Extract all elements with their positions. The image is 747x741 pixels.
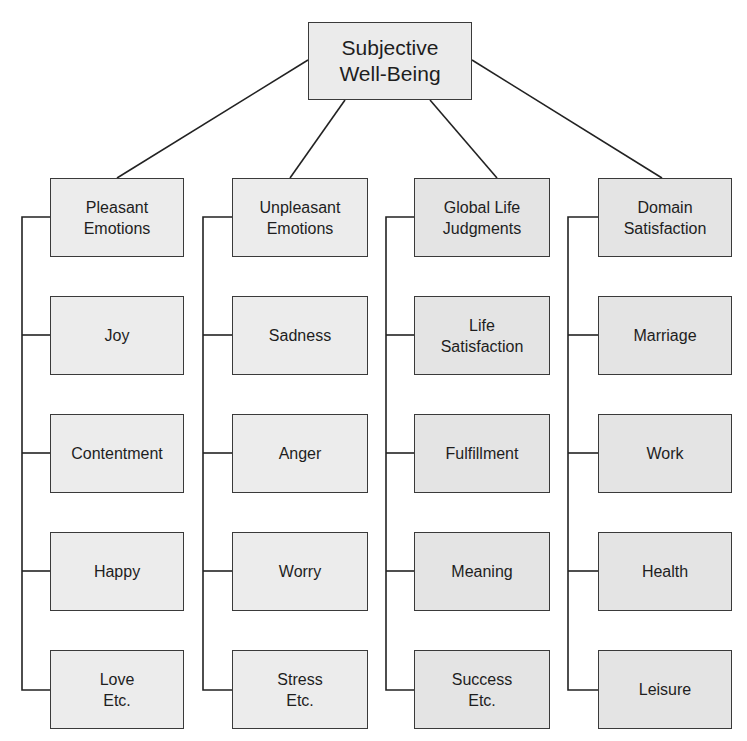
node-happy: Happy — [50, 532, 184, 611]
node-work: Work — [598, 414, 732, 493]
node-meaning: Meaning — [414, 532, 550, 611]
node-success-etc: Success Etc. — [414, 650, 550, 729]
node-marriage: Marriage — [598, 296, 732, 375]
category-pleasant-emotions: Pleasant Emotions — [50, 178, 184, 257]
node-contentment: Contentment — [50, 414, 184, 493]
node-leisure: Leisure — [598, 650, 732, 729]
category-domain-satisfaction: Domain Satisfaction — [598, 178, 732, 257]
node-joy: Joy — [50, 296, 184, 375]
root-node-subjective-well-being: Subjective Well-Being — [308, 22, 472, 100]
node-fulfillment: Fulfillment — [414, 414, 550, 493]
category-unpleasant-emotions: Unpleasant Emotions — [232, 178, 368, 257]
category-global-life-judgments: Global Life Judgments — [414, 178, 550, 257]
node-love-etc: Love Etc. — [50, 650, 184, 729]
node-anger: Anger — [232, 414, 368, 493]
node-stress-etc: Stress Etc. — [232, 650, 368, 729]
node-worry: Worry — [232, 532, 368, 611]
node-life-satisfaction: Life Satisfaction — [414, 296, 550, 375]
node-sadness: Sadness — [232, 296, 368, 375]
node-health: Health — [598, 532, 732, 611]
